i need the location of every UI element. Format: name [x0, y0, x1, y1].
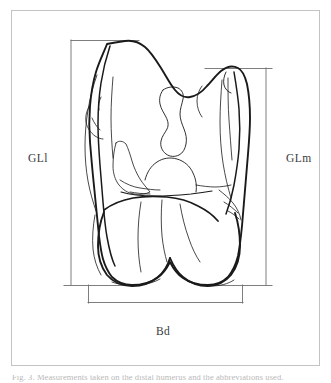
bone-right-inner-groove	[220, 80, 231, 198]
bone-central-dome	[145, 158, 196, 192]
bone-olecranon-fossa	[160, 87, 187, 156]
bone-upper-transverse-right	[196, 185, 231, 187]
label-gll: GLl	[28, 152, 48, 164]
bone-left-fossa	[113, 141, 150, 194]
bone-left-fossa-accessory	[120, 180, 160, 190]
bone-right-upper-hook	[224, 72, 231, 93]
bone-trochlea-left-crease	[138, 202, 141, 272]
label-bd: Bd	[156, 325, 170, 337]
bone-outline-group	[85, 41, 250, 286]
figure-caption-text: Fig. 3. Measurements taken on the distal…	[12, 375, 284, 382]
figure-caption-strip: Fig. 3. Measurements taken on the distal…	[12, 375, 320, 383]
figure-page: GLl GLm Bd Fig. 3. Measurements taken on…	[0, 0, 331, 383]
bone-left-inner-groove	[111, 77, 113, 158]
bone-transverse-ridge	[121, 191, 212, 196]
bone-right-second-groove	[228, 78, 232, 160]
bone-left-notch-inner	[92, 118, 100, 130]
bone-trochlea-right-crease	[180, 204, 200, 262]
bone-trochlea-center-crease	[161, 200, 167, 262]
label-glm: GLm	[286, 152, 311, 164]
